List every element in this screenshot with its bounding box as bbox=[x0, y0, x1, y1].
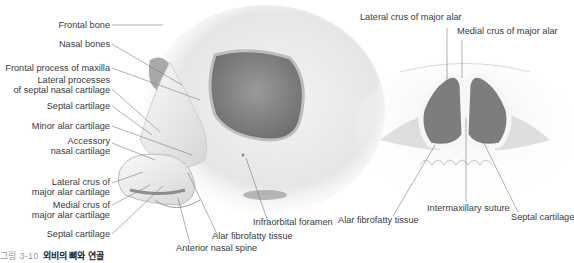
figure-title: 외비의 뼈와 연골 bbox=[43, 251, 104, 261]
label-frontal-process-of-maxilla: Frontal process of maxilla bbox=[5, 63, 110, 74]
label-minor-alar-cartilage: Minor alar cartilage bbox=[32, 121, 110, 132]
label-lateral-crus-line2: major alar cartilage bbox=[32, 187, 110, 198]
label-infraorbital-foramen: Infraorbital foramen bbox=[253, 217, 333, 228]
label-lateral-processes-line1: Lateral processes bbox=[37, 75, 110, 86]
label-septal-cartilage-lower: Septal cartilage bbox=[47, 229, 110, 240]
label-septal-cartilage-right: Septal cartilage bbox=[511, 212, 574, 223]
label-intermaxillary-suture: Intermaxillary suture bbox=[427, 203, 510, 214]
label-medial-crus-line1: Medial crus of bbox=[53, 200, 110, 211]
label-alar-fibrofatty-tissue-left: Alar fibrofatty tissue bbox=[212, 231, 293, 242]
label-lateral-processes-line2: of septal nasal cartilage bbox=[13, 85, 110, 96]
label-septal-cartilage-upper: Septal cartilage bbox=[47, 101, 110, 112]
label-anterior-nasal-spine: Anterior nasal spine bbox=[176, 243, 257, 254]
label-accessory-line2: nasal cartilage bbox=[51, 146, 110, 157]
label-medial-crus-major-alar: Medial crus of major alar bbox=[457, 26, 558, 37]
label-accessory-line1: Accessory bbox=[68, 136, 110, 147]
label-frontal-bone: Frontal bone bbox=[58, 20, 110, 31]
lateral-skull-drawing bbox=[118, 5, 385, 215]
figure-number: 그림 3-10 bbox=[0, 251, 39, 261]
label-medial-crus-line2: major alar cartilage bbox=[32, 210, 110, 221]
basal-nose-drawing bbox=[355, 60, 573, 200]
figure-caption: 그림 3-10외비의 뼈와 연골 bbox=[0, 249, 104, 262]
label-lateral-crus-major-alar: Lateral crus of major alar bbox=[360, 12, 462, 23]
label-nasal-bones: Nasal bones bbox=[59, 39, 110, 50]
label-alar-fibrofatty-tissue-right: Alar fibrofatty tissue bbox=[338, 215, 419, 226]
label-lateral-crus-line1: Lateral crus of bbox=[52, 177, 110, 188]
